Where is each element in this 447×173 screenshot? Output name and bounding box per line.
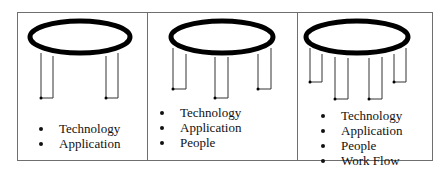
list-item: Technology bbox=[316, 108, 402, 123]
criteria-list: Technology Application bbox=[34, 121, 120, 151]
list-item: Application bbox=[316, 123, 402, 138]
list-item: Application bbox=[34, 136, 120, 151]
criteria-list: Technology Application People bbox=[155, 105, 241, 150]
list-item: Technology bbox=[34, 121, 120, 136]
list-item: People bbox=[316, 138, 402, 153]
panel-two-legs: Technology Application bbox=[18, 12, 147, 161]
list-item: Application bbox=[155, 120, 241, 135]
panel-three-legs: Technology Application People bbox=[148, 12, 297, 161]
list-item: People bbox=[155, 135, 241, 150]
list-item: Work Flow bbox=[316, 153, 402, 168]
panel-four-legs: Technology Application People Work Flow bbox=[298, 12, 433, 161]
list-item: Technology bbox=[155, 105, 241, 120]
criteria-list: Technology Application People Work Flow bbox=[316, 108, 402, 168]
